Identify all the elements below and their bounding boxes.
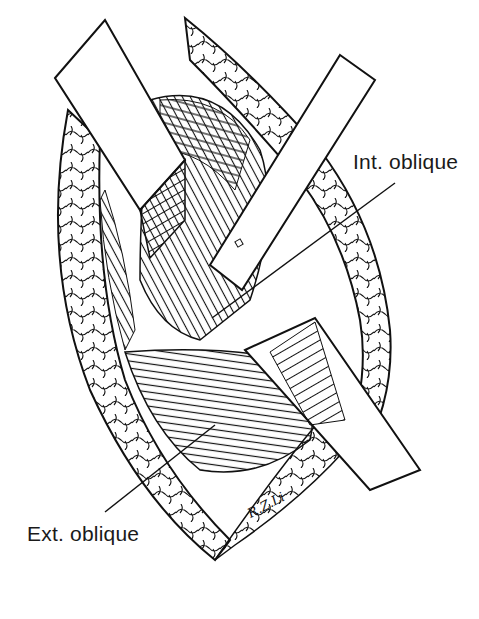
label-external-oblique: Ext. oblique: [27, 522, 139, 546]
label-internal-oblique: Int. oblique: [353, 150, 458, 174]
